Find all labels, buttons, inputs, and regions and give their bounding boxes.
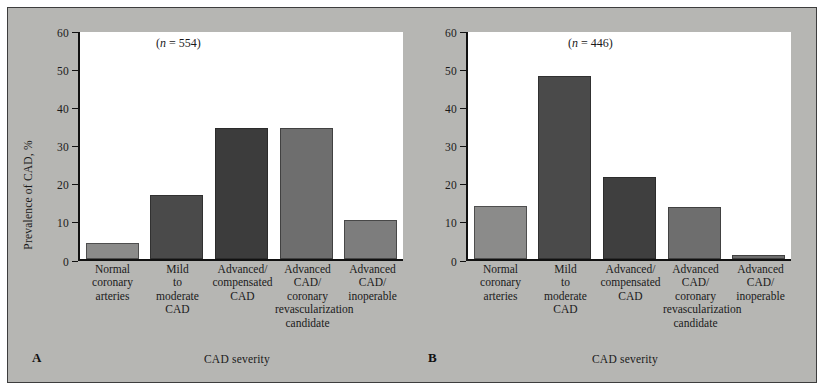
annotation-value-b: = 446) — [578, 36, 613, 50]
y-tick-60 — [72, 32, 78, 33]
bar-slot — [468, 32, 533, 259]
y-tick-label-20: 20 — [445, 179, 457, 191]
category-label-line: Advanced/ — [210, 263, 275, 276]
y-tick-label-0: 0 — [63, 256, 69, 268]
category-label: MildtomoderateCAD — [533, 263, 598, 317]
category-label-line: coronary — [663, 290, 728, 303]
category-label-line: to — [533, 276, 598, 289]
y-tick-20 — [72, 184, 78, 185]
category-label-line: CAD — [210, 290, 275, 303]
panel-a: Prevalence of CAD, % 0102030405060 (n = … — [8, 8, 420, 382]
y-axis-title-a: Prevalence of CAD, % — [22, 140, 34, 249]
bar-slot — [274, 32, 339, 259]
y-tick-0 — [460, 261, 466, 262]
category-label-line: compensated — [598, 276, 663, 289]
bar[interactable] — [668, 207, 721, 259]
y-tick-label-60: 60 — [445, 27, 457, 39]
category-label-line: inoperable — [340, 290, 405, 303]
category-label: AdvancedCAD/coronaryrevascularizationcan… — [275, 263, 340, 330]
y-tick-40 — [72, 108, 78, 109]
y-tick-label-40: 40 — [57, 103, 69, 115]
y-tick-30 — [460, 146, 466, 147]
panel-letter-a: A — [32, 350, 41, 366]
category-label-line: revascularization — [275, 303, 340, 316]
category-label-line: Advanced — [728, 263, 793, 276]
category-label-line: compensated — [210, 276, 275, 289]
sample-size-annotation-a: (n = 554) — [156, 36, 201, 51]
y-tick-label-40: 40 — [445, 103, 457, 115]
bar[interactable] — [150, 195, 203, 259]
category-label-line: CAD — [145, 303, 210, 316]
category-label-line: Advanced — [275, 263, 340, 276]
bar[interactable] — [86, 243, 139, 259]
category-label-line: CAD — [533, 303, 598, 316]
category-label-line: CAD/ — [340, 276, 405, 289]
category-label-line: coronary — [468, 276, 533, 289]
bar-slot — [533, 32, 598, 259]
y-tick-label-30: 30 — [57, 141, 69, 153]
category-label-line: candidate — [663, 317, 728, 330]
category-label-line: Advanced/ — [598, 263, 663, 276]
y-tick-30 — [72, 146, 78, 147]
category-label-line: Advanced — [340, 263, 405, 276]
category-label-row-b: NormalcoronaryarteriesMildtomoderateCADA… — [468, 263, 793, 341]
category-label: AdvancedCAD/inoperable — [728, 263, 793, 303]
y-tick-label-30: 30 — [445, 141, 457, 153]
category-label-line: Normal — [468, 263, 533, 276]
y-tick-label-50: 50 — [57, 65, 69, 77]
category-label-line: coronary — [275, 290, 340, 303]
bar-slot — [597, 32, 662, 259]
category-label-line: CAD/ — [728, 276, 793, 289]
y-tick-label-10: 10 — [445, 217, 457, 229]
category-label-line: coronary — [80, 276, 145, 289]
bar[interactable] — [538, 76, 591, 259]
y-tick-label-10: 10 — [57, 217, 69, 229]
y-tick-label-50: 50 — [445, 65, 457, 77]
y-tick-60 — [460, 32, 466, 33]
category-label: AdvancedCAD/inoperable — [340, 263, 405, 303]
category-label-line: moderate — [145, 290, 210, 303]
bar[interactable] — [344, 220, 397, 259]
category-label-line: candidate — [275, 317, 340, 330]
category-label-line: arteries — [468, 290, 533, 303]
y-tick-0 — [72, 261, 78, 262]
bar[interactable] — [215, 128, 268, 259]
category-label-line: CAD — [598, 290, 663, 303]
figure-container: Prevalence of CAD, % 0102030405060 (n = … — [7, 7, 817, 383]
category-label: Advanced/compensatedCAD — [598, 263, 663, 303]
x-axis-line-b — [466, 259, 791, 261]
y-tick-label-60: 60 — [57, 27, 69, 39]
x-axis-title-b: CAD severity — [592, 353, 658, 365]
x-axis-line-a — [78, 259, 403, 261]
bar[interactable] — [474, 206, 527, 259]
bar-slot — [338, 32, 403, 259]
category-label-row-a: NormalcoronaryarteriesMildtomoderateCADA… — [80, 263, 405, 341]
category-label: AdvancedCAD/coronaryrevascularizationcan… — [663, 263, 728, 330]
y-axis-line-a — [78, 32, 80, 261]
category-label: MildtomoderateCAD — [145, 263, 210, 317]
category-label-line: CAD/ — [275, 276, 340, 289]
y-tick-40 — [460, 108, 466, 109]
y-axis-line-b — [466, 32, 468, 261]
category-label: Normalcoronaryarteries — [80, 263, 145, 303]
bar-slot — [662, 32, 727, 259]
bar-group-a — [80, 32, 403, 259]
category-label-line: Normal — [80, 263, 145, 276]
bar[interactable] — [603, 177, 656, 259]
bar[interactable] — [280, 128, 333, 259]
category-label-line: moderate — [533, 290, 598, 303]
category-label: Normalcoronaryarteries — [468, 263, 533, 303]
panel-letter-b: B — [428, 350, 437, 366]
category-label-line: to — [145, 276, 210, 289]
y-tick-10 — [72, 222, 78, 223]
y-tick-label-0: 0 — [451, 256, 457, 268]
bar-slot — [726, 32, 791, 259]
category-label-line: inoperable — [728, 290, 793, 303]
category-label-line: CAD/ — [663, 276, 728, 289]
bar-group-b — [468, 32, 791, 259]
annotation-value-a: = 554) — [166, 36, 201, 50]
y-tick-10 — [460, 222, 466, 223]
category-label-line: Mild — [145, 263, 210, 276]
bar-slot — [209, 32, 274, 259]
y-tick-label-20: 20 — [57, 179, 69, 191]
